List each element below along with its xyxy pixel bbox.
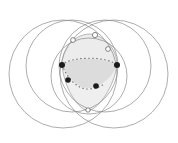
vertex-top-left xyxy=(71,38,76,43)
geometric-diagram xyxy=(0,0,178,143)
figure-container xyxy=(0,0,178,143)
vertex-bottom-cusp xyxy=(86,108,90,112)
vertex-right xyxy=(114,62,120,68)
vertex-top-apex xyxy=(92,32,97,37)
vertex-lower-left xyxy=(65,77,71,83)
vertex-upper-right xyxy=(106,47,111,52)
vertex-lower-right xyxy=(93,83,99,89)
vertex-left xyxy=(59,62,65,68)
